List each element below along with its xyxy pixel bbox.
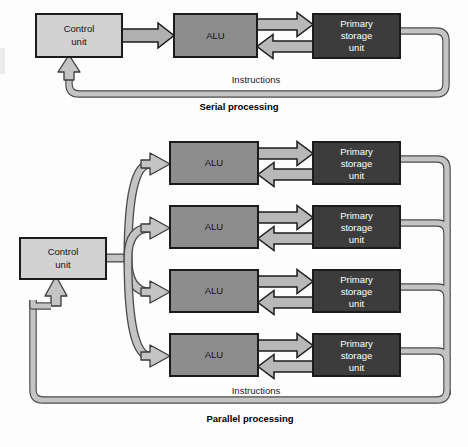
lane1-storage-label-line3: unit: [349, 170, 365, 181]
parallel-lane3-arrows: [258, 270, 313, 315]
serial-alu-label: ALU: [206, 30, 225, 41]
parallel-fanout-bus: [106, 153, 170, 367]
parallel-instructions-label: Instructions: [232, 385, 281, 396]
arrow-shape: [122, 23, 174, 48]
serial-processing-section: Control unit ALU Primary storage unit In…: [36, 13, 446, 113]
lane3-storage-label-line2: storage: [341, 286, 373, 297]
collector-inner-lane1: [400, 159, 447, 395]
serial-storage-label-line2: storage: [341, 30, 373, 41]
diagram-canvas: Control unit ALU Primary storage unit In…: [0, 0, 468, 447]
parallel-lane4-arrows: [258, 334, 313, 379]
lane1-alu-label: ALU: [205, 157, 224, 168]
arrow-shape: [257, 35, 313, 59]
lane3-alu-to-storage-arrow: [258, 270, 313, 294]
lane2-storage-label-line3: unit: [349, 234, 365, 245]
lane3-storage-label-line1: Primary: [340, 274, 373, 285]
lane4-storage-to-alu-arrow: [258, 355, 313, 379]
parallel-lane1-arrows: [258, 142, 313, 187]
serial-control-unit-label-line2: unit: [71, 36, 87, 47]
collector-inner-lane4: [400, 351, 447, 361]
lane2-storage-to-alu-arrow: [258, 227, 313, 251]
collector-outer-lane1: [400, 159, 447, 395]
serial-control-unit-label-line1: Control: [64, 23, 95, 34]
serial-alu-to-storage-arrow: [257, 13, 313, 37]
fanout-branch4-inner: [128, 258, 150, 356]
serial-control-to-alu-arrow: [122, 23, 174, 48]
lane3-storage-to-alu-arrow: [258, 291, 313, 315]
fanout-arrowhead-lane2: [141, 217, 170, 239]
serial-control-unit-block: Control unit: [36, 14, 122, 57]
parallel-control-unit-label-line2: unit: [55, 259, 71, 270]
lane2-storage-label-line1: Primary: [340, 210, 373, 221]
serial-alu-block: ALU: [174, 14, 257, 57]
lane1-storage-label-line2: storage: [341, 158, 373, 169]
lane1-storage-to-alu-arrow: [258, 163, 313, 187]
parallel-caption: Parallel processing: [206, 413, 293, 424]
lane4-storage-label-line1: Primary: [340, 338, 373, 349]
parallel-control-unit-label-line1: Control: [48, 246, 79, 257]
parallel-processing-section: Control unit ALU Primary storage unit AL…: [20, 142, 447, 425]
collector-inner-lane2: [400, 223, 447, 233]
serial-storage-label-line1: Primary: [340, 18, 373, 29]
serial-storage-block: Primary storage unit: [313, 14, 400, 58]
serial-storage-label-line3: unit: [349, 42, 365, 53]
processing-diagram: Control unit ALU Primary storage unit In…: [0, 0, 468, 447]
serial-bus-arrowhead: [58, 55, 80, 80]
lane1-alu-to-storage-arrow: [258, 142, 313, 166]
lane4-storage-label-line2: storage: [341, 350, 373, 361]
lane2-alu-label: ALU: [205, 221, 224, 232]
fanout-arrowhead-lane1: [141, 153, 170, 175]
lane2-storage-label-line2: storage: [341, 222, 373, 233]
lane2-alu-to-storage-arrow: [258, 206, 313, 230]
parallel-return-collector-bus: [400, 159, 447, 395]
arrow-shape: [257, 13, 313, 37]
lane4-alu-label: ALU: [205, 349, 224, 360]
collector-inner-lane3: [400, 287, 447, 297]
parallel-bus-arrowhead: [45, 276, 67, 306]
serial-instructions-label: Instructions: [232, 74, 281, 85]
serial-storage-to-alu-arrow: [257, 35, 313, 59]
lane4-storage-label-line3: unit: [349, 362, 365, 373]
parallel-lane2-arrows: [258, 206, 313, 251]
fanout-arrowhead-lane3: [141, 281, 170, 303]
lane4-alu-to-storage-arrow: [258, 334, 313, 358]
fanout-arrowhead-lane4: [141, 345, 170, 367]
lane3-alu-label: ALU: [205, 285, 224, 296]
lane3-storage-label-line3: unit: [349, 298, 365, 309]
serial-caption: Serial processing: [199, 101, 278, 112]
lane1-storage-label-line1: Primary: [340, 146, 373, 157]
parallel-control-unit-block: Control unit: [20, 238, 106, 279]
